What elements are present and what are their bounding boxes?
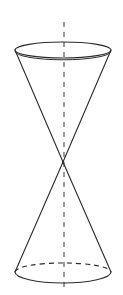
canvas-background bbox=[0, 0, 123, 295]
apex-point bbox=[62, 161, 63, 162]
double-cone-figure: Double cone (two nappes) with vertical a… bbox=[0, 0, 123, 295]
double-cone-diagram: Double cone (two nappes) with vertical a… bbox=[0, 0, 123, 295]
